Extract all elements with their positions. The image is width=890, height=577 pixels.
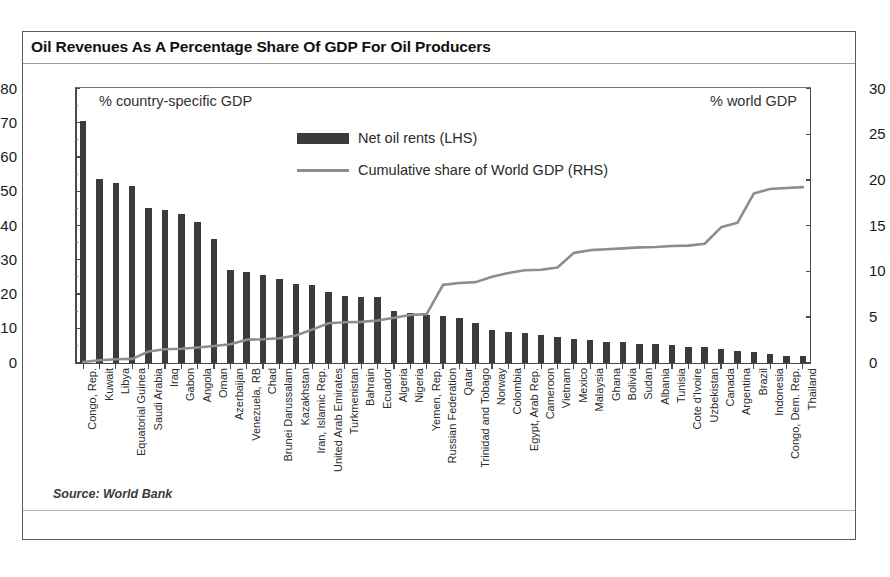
chart-figure: Oil Revenues As A Percentage Share Of GD… xyxy=(22,31,856,540)
left-minor-tick xyxy=(75,276,78,277)
bar-colombia xyxy=(505,332,512,363)
x-axis-category-labels: Congo, Rep.KuwaitLibyaEquatorial GuineaS… xyxy=(75,368,815,518)
bar-brunei-darussalam xyxy=(276,279,283,363)
x-label-bolivia: Bolivia xyxy=(627,368,638,400)
right-tick-label-10: 10 xyxy=(869,263,890,278)
bar-mexico xyxy=(571,339,578,363)
x-label-congo-dem-rep: Congo, Dem. Rep. xyxy=(790,368,801,459)
x-label-trinidad-and-tobago: Trinidad and Tobago xyxy=(480,368,491,468)
x-label-angola: Angola xyxy=(202,368,213,402)
bar-tunisia xyxy=(669,345,676,362)
left-tick-label-10: 10 xyxy=(0,320,17,335)
bar-saudi-arabia xyxy=(145,208,152,362)
left-tick-label-20: 20 xyxy=(0,286,17,301)
bar-equatorial-guinea xyxy=(129,186,136,362)
bar-cote-d-ivoire xyxy=(685,347,692,362)
title-divider xyxy=(23,63,855,64)
x-label-kuwait: Kuwait xyxy=(104,368,115,401)
bar-yemen-rep xyxy=(423,315,430,363)
x-label-cote-d-ivoire: Cote d'Ivoire xyxy=(692,368,703,429)
right-tick-25 xyxy=(806,134,811,135)
x-label-colombia: Colombia xyxy=(512,368,523,414)
right-tick-30 xyxy=(806,88,811,89)
left-tick-label-50: 50 xyxy=(0,183,17,198)
left-minor-tick xyxy=(75,311,78,312)
bar-indonesia xyxy=(767,354,774,363)
x-label-russian-federation: Russian Federation xyxy=(447,368,458,463)
x-label-qatar: Qatar xyxy=(463,368,474,396)
bar-kazakhstan xyxy=(293,284,300,363)
x-label-iraq: Iraq xyxy=(169,368,180,387)
x-label-algeria: Algeria xyxy=(398,368,409,402)
x-label-gabon: Gabon xyxy=(185,368,196,401)
left-minor-tick xyxy=(75,345,78,346)
right-tick-5 xyxy=(806,316,811,317)
x-label-nigeria: Nigeria xyxy=(414,368,425,403)
left-minor-tick xyxy=(75,174,78,175)
x-label-iran-islamic-rep: Iran, Islamic Rep. xyxy=(316,368,327,454)
bar-norway xyxy=(489,330,496,363)
x-label-sudan: Sudan xyxy=(643,368,654,400)
left-axis-annotation: % country-specific GDP xyxy=(99,93,252,109)
bar-cameroon xyxy=(538,335,545,362)
right-tick-label-0: 0 xyxy=(869,355,890,370)
left-minor-tick xyxy=(75,105,78,106)
x-label-oman: Oman xyxy=(218,368,229,398)
left-tick-label-70: 70 xyxy=(0,115,17,130)
legend-line-swatch-icon xyxy=(297,169,349,172)
right-tick-label-15: 15 xyxy=(869,218,890,233)
x-label-turkmenistan: Turkmenistan xyxy=(349,368,360,434)
x-label-thailand: Thailand xyxy=(807,368,818,410)
left-minor-tick xyxy=(75,139,78,140)
legend-item-net-oil-rents: Net oil rents (LHS) xyxy=(297,127,608,149)
bar-iraq xyxy=(162,210,169,362)
x-label-azerbaijan: Azerbaijan xyxy=(234,368,245,420)
bar-libya xyxy=(113,183,120,363)
bar-turkmenistan xyxy=(342,296,349,363)
x-label-ecuador: Ecuador xyxy=(382,368,393,409)
x-label-chad: Chad xyxy=(267,368,278,394)
legend-label-cumulative-share: Cumulative share of World GDP (RHS) xyxy=(358,162,608,178)
right-tick-20 xyxy=(806,179,811,180)
chart-legend: Net oil rents (LHS) Cumulative share of … xyxy=(297,127,608,191)
bar-united-arab-emirates xyxy=(325,292,332,362)
bar-canada xyxy=(718,349,725,363)
bar-angola xyxy=(194,222,201,362)
x-label-kazakhstan: Kazakhstan xyxy=(300,368,311,425)
x-label-bahrain: Bahrain xyxy=(365,368,376,406)
x-label-brunei-darussalam: Brunei Darussalam xyxy=(283,368,294,462)
x-label-united-arab-emirates: United Arab Emirates xyxy=(333,368,344,472)
plot-border-top xyxy=(75,87,811,88)
bar-congo-rep xyxy=(80,121,87,362)
x-label-indonesia: Indonesia xyxy=(774,368,785,416)
x-label-equatorial-guinea: Equatorial Guinea xyxy=(136,368,147,456)
x-label-canada: Canada xyxy=(725,368,736,407)
right-tick-0 xyxy=(806,362,811,363)
left-tick-label-40: 40 xyxy=(0,218,17,233)
left-tick-label-80: 80 xyxy=(0,81,17,96)
legend-item-cumulative-share: Cumulative share of World GDP (RHS) xyxy=(297,159,608,181)
bar-ecuador xyxy=(374,297,381,362)
source-note: Source: World Bank xyxy=(53,487,172,501)
x-label-albania: Albania xyxy=(660,368,671,405)
bar-trinidad-and-tobago xyxy=(472,323,479,362)
left-minor-tick xyxy=(75,242,78,243)
x-label-yemen-rep: Yemen, Rep. xyxy=(431,368,442,431)
x-label-argentina: Argentina xyxy=(741,368,752,415)
bar-qatar xyxy=(456,318,463,363)
x-label-tunisia: Tunisia xyxy=(676,368,687,403)
bar-albania xyxy=(652,344,659,363)
x-label-malaysia: Malaysia xyxy=(594,368,605,411)
bar-azerbaijan xyxy=(227,270,234,362)
bar-russian-federation xyxy=(440,316,447,362)
legend-bar-swatch-icon xyxy=(297,133,349,144)
bar-bahrain xyxy=(358,297,365,362)
bar-brazil xyxy=(751,352,758,362)
bar-vietnam xyxy=(554,337,561,363)
right-tick-label-30: 30 xyxy=(869,81,890,96)
left-tick-80 xyxy=(75,88,80,89)
bar-malaysia xyxy=(587,340,594,362)
x-label-libya: Libya xyxy=(120,368,131,394)
x-label-mexico: Mexico xyxy=(578,368,589,403)
bar-venezuela-rb xyxy=(243,272,250,363)
